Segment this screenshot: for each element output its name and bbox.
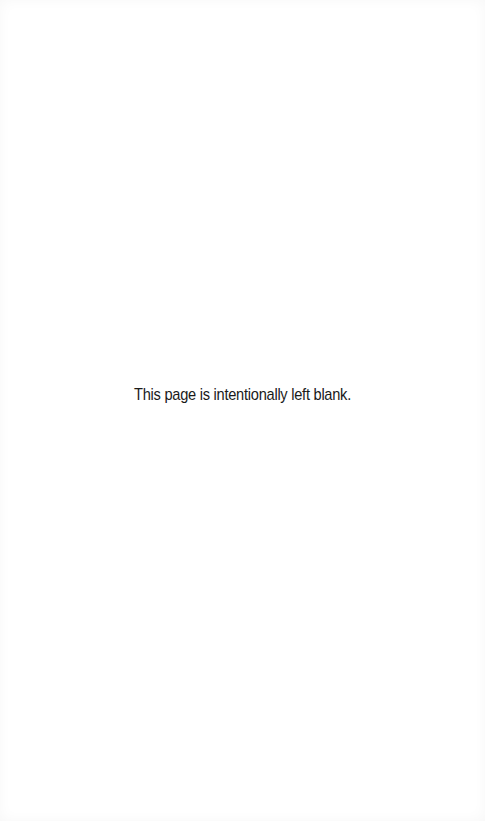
blank-page: This page is intentionally left blank. (0, 0, 485, 821)
blank-page-notice: This page is intentionally left blank. (34, 383, 451, 407)
